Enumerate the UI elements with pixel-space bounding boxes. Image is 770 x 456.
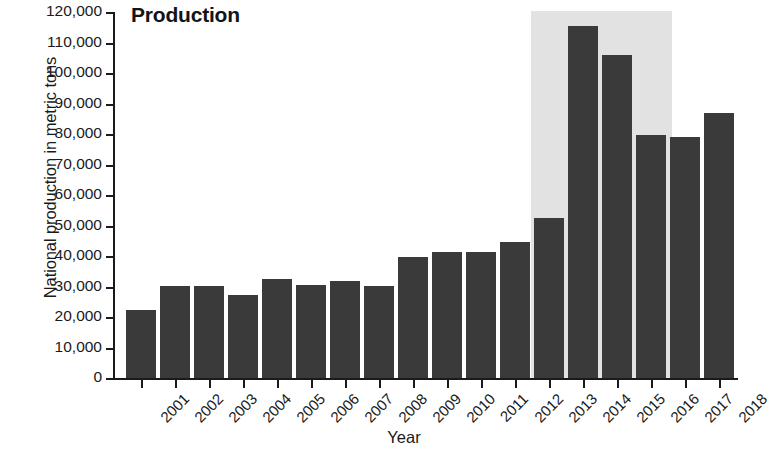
x-axis-tick-label: 2016 xyxy=(667,390,703,426)
x-axis-tick xyxy=(617,380,619,388)
x-axis-tick xyxy=(243,380,245,388)
x-axis-tick-label: 2009 xyxy=(429,390,465,426)
y-axis-tick-label: 60,000 xyxy=(0,185,102,203)
y-axis-tick-label: 110,000 xyxy=(0,33,102,51)
x-axis-tick xyxy=(209,380,211,388)
x-axis-tick-label: 2010 xyxy=(463,390,499,426)
x-axis-tick-label: 2014 xyxy=(599,390,635,426)
x-axis-tick-label: 2011 xyxy=(496,390,531,425)
bar xyxy=(228,295,258,378)
x-axis-tick-label: 2005 xyxy=(293,390,329,426)
y-axis-line xyxy=(113,12,115,379)
bar xyxy=(364,286,394,378)
bar xyxy=(704,113,734,378)
plot-area xyxy=(126,11,738,378)
x-axis-tick-label: 2017 xyxy=(701,390,737,426)
y-axis-tick-label: 0 xyxy=(0,368,102,386)
y-axis-tick-label: 30,000 xyxy=(0,277,102,295)
x-axis-tick-label: 2004 xyxy=(259,390,295,426)
y-axis-tick-label: 120,000 xyxy=(0,2,102,20)
bar xyxy=(500,242,530,378)
bar xyxy=(296,285,326,378)
x-axis-tick-label: 2007 xyxy=(361,390,397,426)
x-axis-tick xyxy=(583,380,585,388)
x-axis-tick xyxy=(549,380,551,388)
bar xyxy=(670,137,700,378)
x-axis-tick xyxy=(141,380,143,388)
bar xyxy=(568,26,598,378)
x-axis-tick xyxy=(481,380,483,388)
x-axis-title: Year xyxy=(0,428,762,447)
y-axis-tick-label: 40,000 xyxy=(0,246,102,264)
y-axis-tick-label: 90,000 xyxy=(0,94,102,112)
y-axis-tick-label: 20,000 xyxy=(0,307,102,325)
x-axis-tick xyxy=(379,380,381,388)
y-axis-tick-label: 50,000 xyxy=(0,216,102,234)
y-axis-tick-label: 100,000 xyxy=(0,63,102,81)
bars-layer xyxy=(126,11,738,378)
x-axis-tick-label: 2006 xyxy=(327,390,363,426)
x-axis-tick-label: 2001 xyxy=(157,390,193,426)
x-axis-tick xyxy=(413,380,415,388)
x-axis-tick xyxy=(447,380,449,388)
x-axis-tick xyxy=(345,380,347,388)
x-axis-title-label: Year xyxy=(387,428,420,447)
bar xyxy=(126,310,156,378)
bar xyxy=(466,252,496,378)
x-axis-tick-label: 2003 xyxy=(225,390,261,426)
bar xyxy=(330,281,360,378)
bar xyxy=(262,279,292,378)
x-axis-tick xyxy=(651,380,653,388)
bar xyxy=(432,252,462,378)
y-axis-tick-label: 70,000 xyxy=(0,155,102,173)
x-axis-line xyxy=(113,378,738,380)
bar xyxy=(636,135,666,378)
bar xyxy=(602,55,632,378)
bar xyxy=(194,286,224,378)
x-axis-tick-label: 2012 xyxy=(531,390,567,426)
y-axis-tick-label: 80,000 xyxy=(0,124,102,142)
x-axis-tick xyxy=(277,380,279,388)
x-axis-tick xyxy=(175,380,177,388)
bar xyxy=(398,257,428,378)
x-axis-tick-label: 2013 xyxy=(565,390,601,426)
bar xyxy=(160,286,190,378)
x-axis-tick xyxy=(685,380,687,388)
x-axis-tick xyxy=(515,380,517,388)
x-axis-tick-label: 2008 xyxy=(395,390,431,426)
x-axis-tick xyxy=(719,380,721,388)
x-axis-tick-label: 2018 xyxy=(735,390,770,426)
x-axis-tick-label: 2015 xyxy=(633,390,669,426)
x-axis-tick-label: 2002 xyxy=(191,390,227,426)
x-axis-tick xyxy=(311,380,313,388)
y-axis-tick-label: 10,000 xyxy=(0,338,102,356)
bar xyxy=(534,218,564,378)
